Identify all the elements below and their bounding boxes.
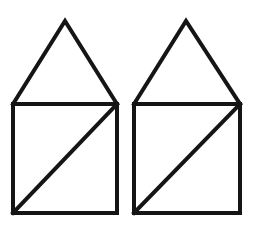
left-house-diagonal [13,104,117,213]
right-house-diagonal [134,104,240,213]
right-house-triangle-roof [134,21,240,104]
right-house-group [134,21,240,213]
figure-canvas [0,0,255,226]
two-houses-drawing [0,0,255,226]
left-house-triangle-roof [13,21,117,104]
left-house-group [13,21,117,213]
